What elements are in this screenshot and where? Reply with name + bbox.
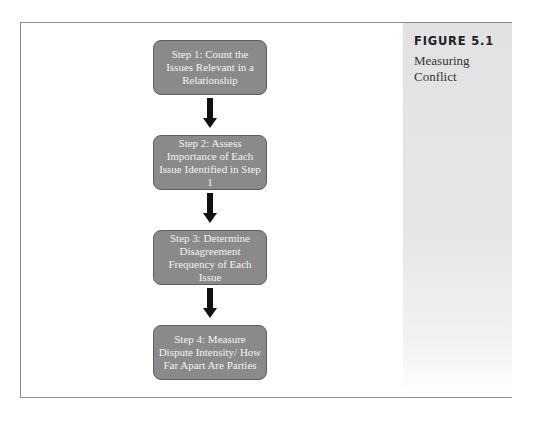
flow-step-4: Step 4: Measure Dispute Intensity/ How F… <box>153 325 267 380</box>
arrow-down-icon <box>203 98 217 128</box>
figure-caption: Measuring Conflict <box>414 53 509 85</box>
flow-step-1: Step 1: Count the Issues Relevant in a R… <box>153 40 267 95</box>
arrow-down-icon <box>203 193 217 223</box>
flow-step-2: Step 2: Assess Importance of Each Issue … <box>153 135 267 190</box>
flow-step-3: Step 3: Determine Disagreement Frequency… <box>153 230 267 285</box>
figure-label: FIGURE 5.1 <box>414 34 494 48</box>
arrow-down-icon <box>203 288 217 318</box>
